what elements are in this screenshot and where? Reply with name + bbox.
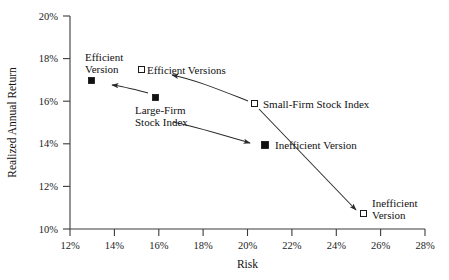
y-axis-title: Realized Annual Return	[6, 67, 18, 178]
x-tick-label-16: 16%	[149, 240, 169, 251]
legend-marker-efficient-versions	[139, 67, 145, 73]
label-large-firm-line2: Stock Index	[135, 116, 188, 128]
scatter-chart: 20% 18% 16% 14% 12% 10% 12% 14% 16% 18% …	[0, 0, 449, 280]
label-inefficient-version-br-line1: Inefficient	[372, 197, 418, 209]
y-tick-group: 20% 18% 16% 14% 12% 10%	[39, 11, 70, 235]
label-large-firm-line1: Large-Firm	[135, 104, 186, 116]
label-efficient-version-line2: Version	[85, 63, 119, 75]
x-tick-label-24: 24%	[327, 240, 347, 251]
x-tick-label-26: 26%	[371, 240, 391, 251]
y-tick-label-10: 10%	[39, 224, 59, 235]
arrow-small-firm-to-legend	[172, 75, 248, 101]
label-inefficient-version-mid: Inefficient Version	[275, 139, 357, 151]
x-tick-label-12: 12%	[60, 240, 80, 251]
x-axis-title: Risk	[237, 258, 258, 270]
marker-inefficient-version-bottom-right[interactable]	[361, 211, 367, 217]
marker-large-firm-stock-index[interactable]	[153, 95, 159, 101]
x-tick-label-14: 14%	[105, 240, 125, 251]
marker-efficient-version[interactable]	[89, 78, 95, 84]
point-labels: Efficient Version Efficient Versions Lar…	[85, 51, 418, 221]
label-inefficient-version-br-line2: Version	[372, 209, 406, 221]
label-small-firm-stock-index: Small-Firm Stock Index	[263, 98, 370, 110]
label-efficient-version-line1: Efficient	[85, 51, 123, 63]
y-tick-label-14: 14%	[39, 138, 59, 149]
x-tick-group: 12% 14% 16% 18% 20% 22% 24% 26% 28%	[60, 229, 435, 251]
arrow-efficient-versions-to-point	[112, 85, 148, 93]
y-tick-label-12: 12%	[39, 181, 59, 192]
y-tick-label-20: 20%	[39, 11, 59, 22]
y-tick-label-16: 16%	[39, 96, 59, 107]
x-tick-label-20: 20%	[238, 240, 258, 251]
x-tick-label-18: 18%	[193, 240, 213, 251]
chart-container: 20% 18% 16% 14% 12% 10% 12% 14% 16% 18% …	[0, 0, 449, 280]
x-tick-label-28: 28%	[415, 240, 435, 251]
marker-small-firm-stock-index[interactable]	[252, 101, 258, 107]
x-tick-label-22: 22%	[282, 240, 302, 251]
y-tick-label-18: 18%	[39, 53, 59, 64]
label-efficient-versions-legend: Efficient Versions	[147, 64, 226, 76]
marker-inefficient-version-mid[interactable]	[262, 142, 269, 149]
arrow-small-firm-to-bottom-right	[259, 109, 356, 210]
